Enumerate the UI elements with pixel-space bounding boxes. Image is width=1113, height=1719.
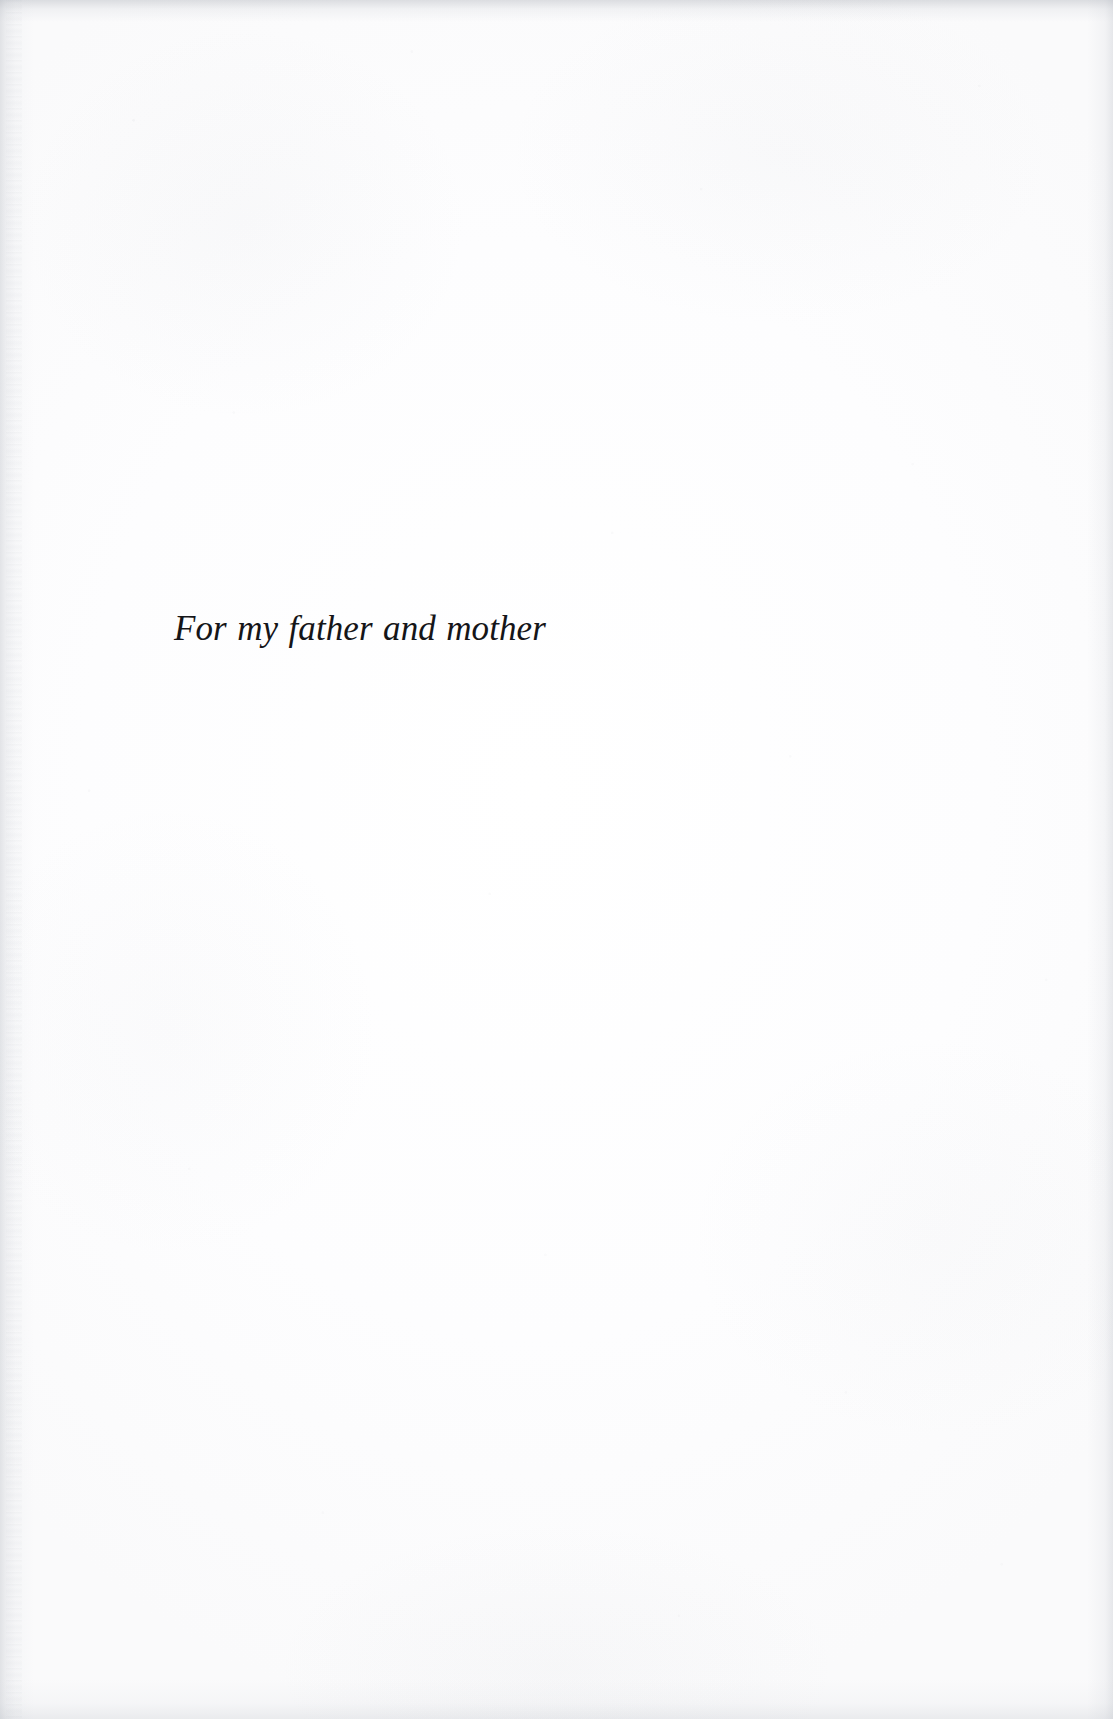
paper-background <box>0 0 1113 1719</box>
scanned-page: For my father and mother <box>0 0 1113 1719</box>
dedication-text: For my father and mother <box>174 609 546 648</box>
